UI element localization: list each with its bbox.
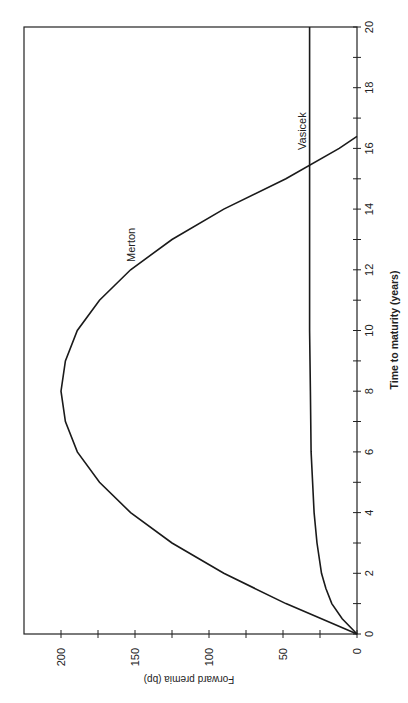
svg-text:0: 0 <box>351 648 363 654</box>
svg-text:2: 2 <box>363 570 375 576</box>
svg-text:0: 0 <box>363 631 375 637</box>
svg-text:20: 20 <box>363 21 375 33</box>
svg-text:14: 14 <box>363 203 375 215</box>
svg-text:10: 10 <box>363 324 375 336</box>
svg-text:16: 16 <box>363 142 375 154</box>
svg-text:18: 18 <box>363 82 375 94</box>
time-axis-labels: 0 2 4 6 8 10 12 14 16 18 20 <box>363 21 375 637</box>
svg-text:50: 50 <box>277 648 289 660</box>
svg-text:6: 6 <box>363 449 375 455</box>
x-axis-title: Time to maturity (years) <box>388 271 400 390</box>
svg-text:12: 12 <box>363 264 375 276</box>
svg-text:100: 100 <box>203 648 215 666</box>
vasicek-label: Vasicek <box>296 112 308 150</box>
premia-axis-labels: 0 50 100 150 200 <box>55 648 363 666</box>
merton-label: Merton <box>125 228 137 262</box>
chart: 0 2 4 6 8 10 12 14 16 18 20 0 50 100 150… <box>0 0 408 703</box>
merton-curve <box>61 136 357 634</box>
svg-text:4: 4 <box>363 510 375 516</box>
vasicek-curve <box>310 27 357 634</box>
svg-text:8: 8 <box>363 388 375 394</box>
time-axis-ticks <box>353 27 361 634</box>
svg-text:150: 150 <box>129 648 141 666</box>
svg-text:200: 200 <box>55 648 67 666</box>
y-axis-title: Forward premia (bp) <box>144 674 235 685</box>
